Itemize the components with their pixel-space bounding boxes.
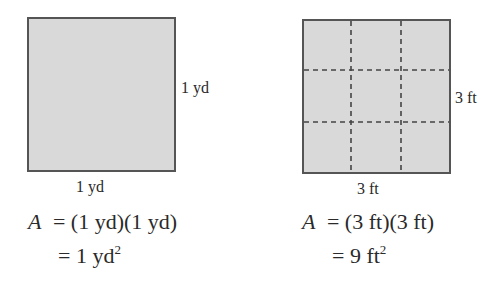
right-bottom-label: 3 ft: [357, 180, 379, 198]
area-variable: A: [302, 209, 315, 234]
right-result: = 9 ft: [332, 243, 380, 268]
right-side-label: 3 ft: [455, 89, 477, 107]
right-result-exponent: 2: [380, 242, 387, 257]
right-equation-rhs: = (3 ft)(3 ft): [327, 209, 434, 234]
dashed-grid-lines: [0, 0, 497, 296]
right-equation-line-2: = 9 ft2: [332, 242, 386, 269]
right-equation-line-1: A = (3 ft)(3 ft): [302, 209, 434, 235]
